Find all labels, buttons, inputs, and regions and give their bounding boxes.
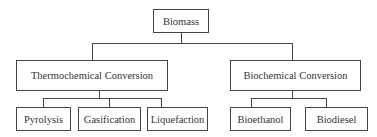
node-biodiesel: Biodiesel	[305, 107, 368, 131]
node-biomass: Biomass	[153, 9, 209, 33]
connector-line	[181, 33, 182, 43]
connector-line	[251, 98, 252, 107]
connector-line	[92, 43, 293, 44]
node-gasification: Gasification	[78, 107, 141, 131]
connector-line	[43, 98, 162, 99]
node-label: Biodiesel	[317, 114, 357, 125]
connector-line	[326, 98, 327, 107]
node-label: Bioethanol	[237, 114, 283, 125]
node-label: Liquefaction	[151, 114, 205, 125]
node-label: Biochemical Conversion	[243, 70, 347, 81]
node-label: Biomass	[163, 16, 199, 27]
connector-line	[92, 43, 93, 60]
node-label: Thermochemical Conversion	[31, 70, 153, 81]
node-label: Gasification	[84, 114, 135, 125]
connector-line	[109, 98, 110, 107]
connector-line	[292, 43, 293, 60]
connector-line	[161, 98, 162, 107]
node-pyrolysis: Pyrolysis	[16, 107, 71, 131]
node-biochemical-conversion: Biochemical Conversion	[230, 60, 361, 91]
node-bioethanol: Bioethanol	[230, 107, 291, 131]
node-label: Pyrolysis	[24, 114, 63, 125]
connector-line	[43, 98, 44, 107]
connector-line	[251, 98, 327, 99]
node-thermochemical-conversion: Thermochemical Conversion	[16, 60, 168, 91]
node-liquefaction: Liquefaction	[147, 107, 208, 131]
